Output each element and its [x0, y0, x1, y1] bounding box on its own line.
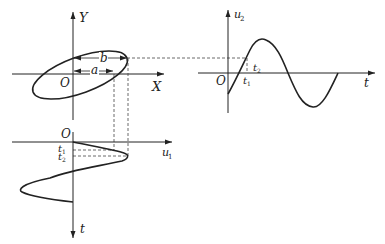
u1-sine-curve [20, 142, 127, 202]
y-axis-label: Y [79, 10, 89, 25]
lissajous-diagram: Y X O b a u 2 t O t 1 t 2 u 1 t O [0, 0, 385, 244]
u1-axis-subscript: 1 [168, 153, 172, 161]
t2-subscript-u1: 2 [62, 156, 66, 163]
t-axis-label-down: t [80, 222, 85, 236]
t-axis-label: t [364, 76, 369, 90]
lissajous-ellipse [27, 41, 133, 109]
t1-subscript-u1: 1 [62, 148, 66, 155]
t2-subscript-u2: 2 [257, 67, 261, 74]
t1-subscript-u2: 1 [247, 80, 251, 87]
xy-plot: Y X O b a [12, 10, 164, 120]
origin-label: O [60, 76, 70, 90]
u2-axis-subscript: 2 [240, 15, 244, 23]
origin-label-u1: O [61, 127, 71, 141]
u2-plot: u 2 t O t 1 t 2 [198, 8, 375, 113]
x-axis-label: X [151, 79, 162, 94]
a-label: a [91, 63, 98, 77]
b-label: b [100, 51, 108, 65]
origin-label-u2: O [216, 74, 226, 88]
u1-plot: u 1 t O t 1 t 2 [12, 127, 172, 238]
